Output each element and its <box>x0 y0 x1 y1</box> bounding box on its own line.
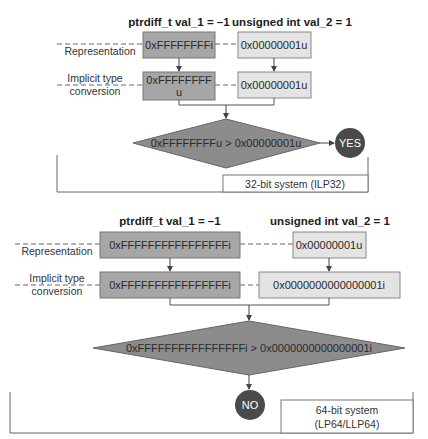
comparison-text-64: 0xFFFFFFFFFFFFFFFFi > 0x0000000000000001… <box>126 342 372 354</box>
system-label-64-line2: (LP64/LLP64) <box>315 418 380 430</box>
comparison-text-32: 0xFFFFFFFFu > 0x00000001u <box>151 137 302 149</box>
result-text-32: YES <box>339 137 361 149</box>
conv-value-left-32-line1: 0xFFFFFFFF <box>146 74 212 86</box>
label-conversion-32-line2: conversion <box>70 85 121 97</box>
conv-value-right-32: 0x00000001u <box>241 79 308 91</box>
join-connector-64 <box>170 298 329 305</box>
conv-value-left-32-line2: u <box>176 86 182 98</box>
conv-value-left-64: 0xFFFFFFFFFFFFFFFFi <box>109 279 231 291</box>
heading-val2-64: unsigned int val_2 = 1 <box>270 215 390 227</box>
label-conversion-64-line1: Implicit type <box>29 272 85 284</box>
repr-value-left-32: 0xFFFFFFFFi <box>145 39 213 51</box>
label-conversion-32-line1: Implicit type <box>67 72 123 84</box>
system-label-32: 32-bit system (ILP32) <box>245 178 345 190</box>
heading-val2-32: unsigned int val_2 = 1 <box>232 16 352 28</box>
heading-val1-32: ptrdiff_t val_1 = –1 <box>128 16 230 28</box>
result-text-64: NO <box>242 399 259 411</box>
heading-val1-64: ptrdiff_t val_1 = –1 <box>119 215 221 227</box>
section-32bit: ptrdiff_t val_1 = –1 unsigned int val_2 … <box>57 16 368 192</box>
repr-value-left-64: 0xFFFFFFFFFFFFFFFFi <box>109 239 231 251</box>
label-representation-32: Representation <box>64 45 135 57</box>
type-conversion-diagram: ptrdiff_t val_1 = –1 unsigned int val_2 … <box>0 0 428 439</box>
label-representation-64: Representation <box>21 245 92 257</box>
repr-value-right-32: 0x00000001u <box>241 39 308 51</box>
conv-value-right-64: 0x0000000000000001i <box>273 279 385 291</box>
repr-value-right-64: 0x00000001u <box>296 239 363 251</box>
section-64bit: ptrdiff_t val_1 = –1 unsigned int val_2 … <box>10 215 413 433</box>
system-label-64-line1: 64-bit system <box>316 404 379 416</box>
label-conversion-64-line2: conversion <box>32 285 83 297</box>
